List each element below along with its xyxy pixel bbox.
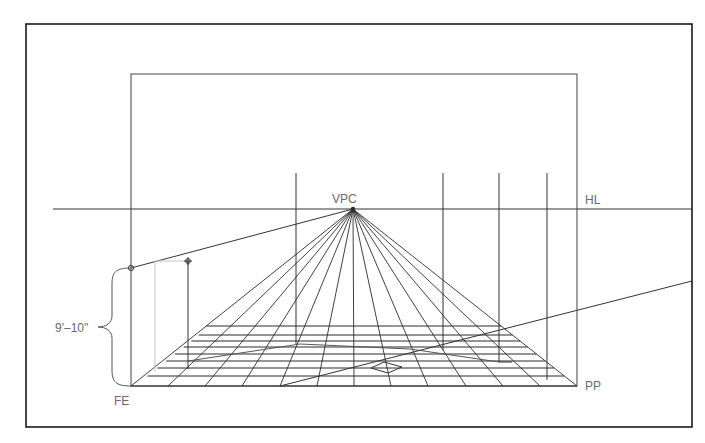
perspective-diagram: VPC HL PP FE 9'–10" (0, 0, 705, 443)
outer-frame (26, 24, 692, 427)
fe-label: FE (114, 394, 129, 408)
hl-label: HL (585, 193, 601, 207)
height-dimension-label: 9'–10" (55, 321, 88, 335)
measuring-line (131, 209, 353, 268)
pp-label: PP (585, 379, 601, 393)
diagonal-line (280, 281, 692, 386)
vpc-marker (351, 207, 355, 211)
height-brace-icon (98, 268, 131, 386)
construction-lines (155, 261, 188, 372)
vpc-label: VPC (332, 192, 357, 206)
object-top-marker (184, 257, 192, 265)
